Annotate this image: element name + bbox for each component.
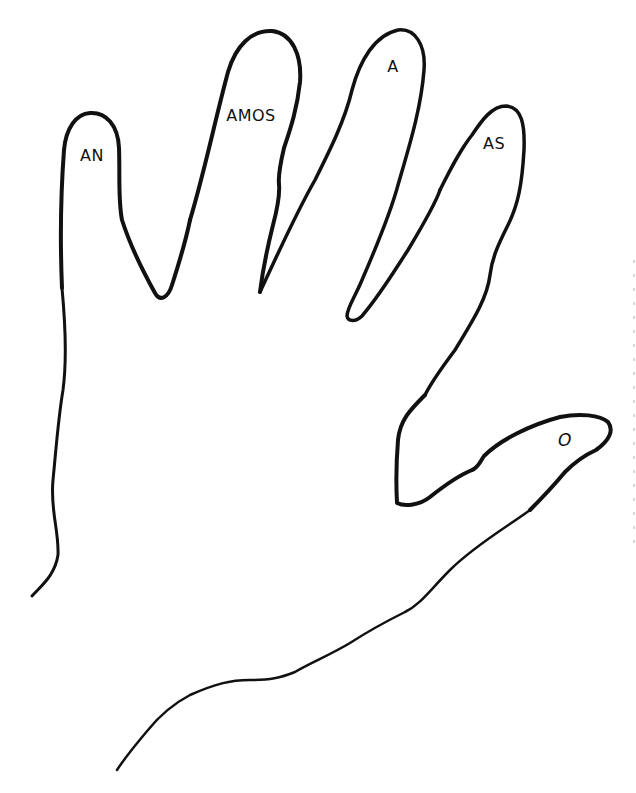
ring-finger-outline: [190, 31, 300, 292]
thumb-outline: [396, 395, 610, 510]
finger-label-index: AS: [483, 134, 505, 153]
finger-label-thumb: O: [558, 430, 572, 450]
finger-label-pinky: AN: [80, 146, 104, 165]
pinky-outline: [61, 113, 190, 298]
index-finger-outline: [425, 106, 524, 395]
hand-left-edge: [32, 288, 65, 596]
scan-edge-artifact: [633, 260, 635, 550]
finger-label-ring: AMOS: [226, 106, 276, 125]
hand-bottom-edge: [117, 510, 530, 770]
middle-finger-outline: [260, 30, 440, 321]
hand-diagram: AN AMOS A AS O: [0, 0, 636, 793]
hand-outline: [0, 0, 636, 793]
finger-label-middle: A: [387, 57, 398, 76]
